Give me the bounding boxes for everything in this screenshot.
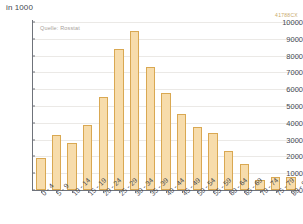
y-axis-unit-label: in 1000 (6, 3, 33, 12)
y-tick-mark (32, 38, 35, 39)
x-tick-mark (88, 190, 89, 193)
x-tick-mark (260, 190, 261, 193)
gridline (33, 39, 299, 40)
x-tick-mark (229, 190, 230, 193)
y-tick-mark (32, 173, 35, 174)
x-tick-mark (72, 190, 73, 193)
bar (161, 93, 170, 190)
y-tick-mark (32, 139, 35, 140)
population-histogram-chart: in 1000 41788CX Quelle: Rosstat 01000200… (0, 0, 303, 224)
gridline (33, 72, 299, 73)
y-tick-mark (32, 72, 35, 73)
y-tick-mark (32, 89, 35, 90)
y-tick-mark (32, 190, 35, 191)
y-tick-mark (32, 22, 35, 23)
x-tick-mark (213, 190, 214, 193)
y-tick-label: 2000 (275, 152, 303, 161)
bar (36, 158, 45, 190)
x-tick-mark (150, 190, 151, 193)
x-tick-mark (41, 190, 42, 193)
bar (67, 143, 76, 190)
y-tick-mark (32, 55, 35, 56)
y-tick-label: 9000 (275, 34, 303, 43)
x-tick-mark (197, 190, 198, 193)
y-tick-mark (32, 156, 35, 157)
x-tick-mark (119, 190, 120, 193)
plot-area (33, 22, 299, 190)
y-tick-label: 8000 (275, 51, 303, 60)
bar (99, 97, 108, 190)
y-tick-label: 4000 (275, 118, 303, 127)
y-tick-label: 5000 (275, 102, 303, 111)
y-tick-mark (32, 106, 35, 107)
x-tick-mark (276, 190, 277, 193)
bar (130, 31, 139, 190)
gridline (33, 22, 299, 23)
x-tick-mark (103, 190, 104, 193)
gridline (33, 56, 299, 57)
gridline (33, 89, 299, 90)
bar (52, 135, 61, 190)
bar (114, 49, 123, 190)
y-tick-label: 3000 (275, 135, 303, 144)
x-tick-mark (166, 190, 167, 193)
bar (146, 67, 155, 190)
y-tick-label: 7000 (275, 68, 303, 77)
x-tick-mark (135, 190, 136, 193)
y-tick-label: 6000 (275, 85, 303, 94)
x-tick-mark (182, 190, 183, 193)
x-tick-mark (291, 190, 292, 193)
x-tick-mark (56, 190, 57, 193)
y-tick-label: 10000 (275, 18, 303, 27)
y-tick-mark (32, 122, 35, 123)
x-tick-mark (244, 190, 245, 193)
